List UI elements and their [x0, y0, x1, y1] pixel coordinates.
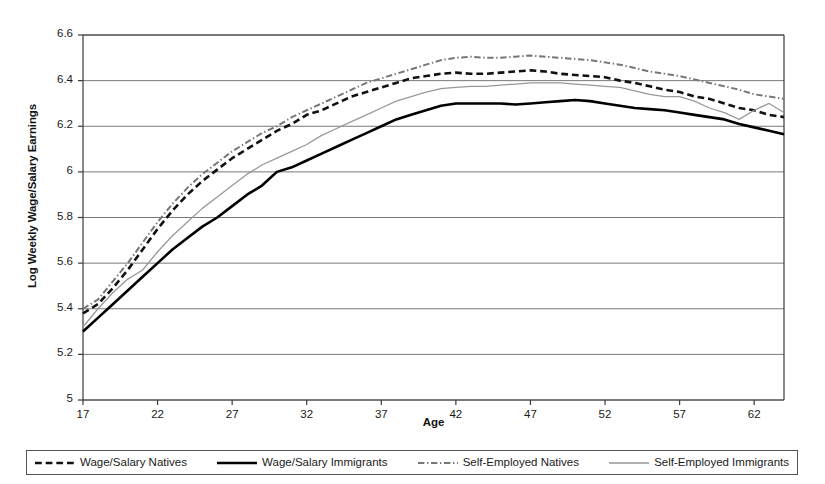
- legend-entry-1: Wage/Salary Immigrants: [217, 457, 387, 469]
- legend-entry-2: Self-Employed Natives: [418, 457, 579, 469]
- chart-plot-area: Log Weekly Wage/Salary Earnings 55.25.45…: [0, 0, 825, 440]
- chart-canvas: [0, 0, 825, 440]
- legend-swatch-icon: [35, 458, 75, 468]
- series-line-3: [83, 83, 784, 327]
- chart-figure: Log Weekly Wage/Salary Earnings 55.25.45…: [0, 0, 825, 484]
- chart-legend: Wage/Salary NativesWage/Salary Immigrant…: [26, 450, 798, 475]
- legend-label: Wage/Salary Immigrants: [262, 457, 387, 469]
- legend-entry-0: Wage/Salary Natives: [35, 457, 187, 469]
- legend-label: Self-Employed Natives: [463, 457, 579, 469]
- series-line-2: [83, 56, 784, 309]
- legend-swatch-icon: [418, 458, 458, 468]
- legend-label: Wage/Salary Natives: [80, 457, 187, 469]
- series-line-1: [83, 100, 784, 332]
- legend-label: Self-Employed Immigrants: [654, 457, 789, 469]
- x-axis-title: Age: [83, 416, 784, 428]
- legend-swatch-icon: [217, 458, 257, 468]
- legend-entry-3: Self-Employed Immigrants: [609, 457, 789, 469]
- legend-swatch-icon: [609, 458, 649, 468]
